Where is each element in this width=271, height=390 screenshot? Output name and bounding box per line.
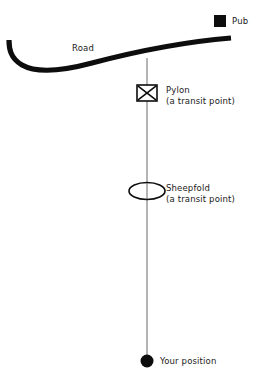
pylon-label-group: Pylon (a transit point) (166, 85, 235, 107)
pub-label: Pub (232, 16, 248, 27)
sheepfold-label: Sheepfold (166, 183, 210, 193)
pylon-label: Pylon (166, 85, 190, 95)
road-label: Road (72, 43, 94, 54)
pylon-sublabel: (a transit point) (166, 96, 235, 107)
road-line (9, 38, 231, 70)
pub-marker-icon (214, 15, 226, 27)
your-position-label: Your position (160, 356, 216, 367)
pylon-marker-icon (137, 85, 157, 101)
your-position-marker-icon (141, 355, 154, 368)
sheepfold-sublabel: (a transit point) (166, 194, 235, 205)
sheepfold-label-group: Sheepfold (a transit point) (166, 183, 235, 205)
